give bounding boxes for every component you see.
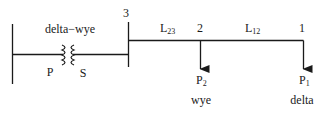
transformer-secondary-label: S <box>80 66 87 80</box>
load-p1-sub: 1 <box>306 79 310 88</box>
line-l23-sub: 23 <box>167 27 175 36</box>
node-2-label: 2 <box>197 21 203 35</box>
load-p1-connection: delta <box>290 93 314 107</box>
load-p2-label: P2 <box>196 73 207 88</box>
load-p2-connection: wye <box>191 93 211 107</box>
line-l23-label: L23 <box>160 21 175 36</box>
load-p2-sub: 2 <box>203 79 207 88</box>
transformer-primary-label: P <box>47 65 54 79</box>
node-1-label: 1 <box>299 21 305 35</box>
line-l12-label: L12 <box>245 21 260 36</box>
one-line-diagram: delta−wye P S 3 2 1 L23 L12 P2 P1 wye de… <box>0 0 319 115</box>
line-l12-sub: 12 <box>252 27 260 36</box>
line-l12-main: L <box>245 21 252 35</box>
bus-3-label: 3 <box>123 6 129 20</box>
line-l23-main: L <box>160 21 167 35</box>
transformer-icon <box>62 45 74 65</box>
transformer-label: delta−wye <box>45 22 95 36</box>
load-p1-label: P1 <box>299 73 310 88</box>
